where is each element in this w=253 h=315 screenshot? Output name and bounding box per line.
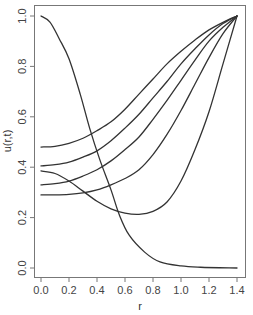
plot-curves bbox=[41, 16, 237, 268]
x-tick-label: 0.0 bbox=[33, 284, 48, 296]
x-tick-label: 0.6 bbox=[117, 284, 132, 296]
x-axis: 0.00.20.40.60.81.01.21.4 bbox=[33, 278, 244, 297]
y-axis: 0.00.20.40.60.81.0 bbox=[16, 8, 35, 275]
y-tick-label: 0.0 bbox=[16, 260, 28, 275]
chart: 0.00.20.40.60.81.01.21.4 0.00.20.40.60.8… bbox=[0, 0, 253, 315]
series-line-curve-start-0.33 bbox=[41, 16, 237, 185]
x-axis-label: r bbox=[138, 300, 142, 312]
x-tick-label: 1.0 bbox=[173, 284, 188, 296]
y-tick-label: 0.2 bbox=[16, 210, 28, 225]
y-tick-label: 0.6 bbox=[16, 109, 28, 124]
y-tick-label: 0.8 bbox=[16, 59, 28, 74]
series-line-curve-decay bbox=[41, 16, 237, 268]
x-tick-label: 0.8 bbox=[145, 284, 160, 296]
x-tick-label: 1.2 bbox=[201, 284, 216, 296]
x-tick-label: 0.2 bbox=[61, 284, 76, 296]
plot-frame bbox=[35, 6, 246, 278]
x-tick-label: 1.4 bbox=[229, 284, 244, 296]
x-tick-label: 0.4 bbox=[89, 284, 104, 296]
y-tick-label: 1.0 bbox=[16, 8, 28, 23]
y-axis-label: u(r,t) bbox=[1, 130, 13, 153]
y-tick-label: 0.4 bbox=[16, 160, 28, 175]
